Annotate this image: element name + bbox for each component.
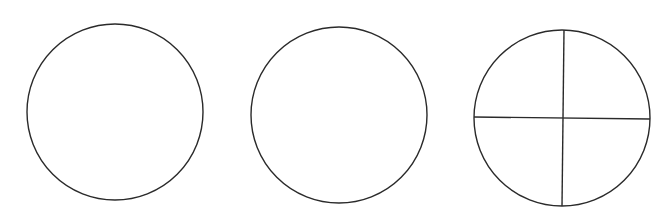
diagram-canvas [0, 0, 672, 220]
background [0, 0, 672, 220]
